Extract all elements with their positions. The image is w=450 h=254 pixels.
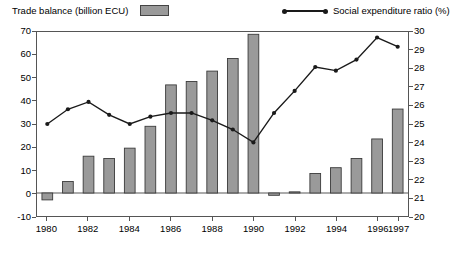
line-point-1992 (293, 89, 297, 93)
line-point-1990 (251, 140, 255, 144)
right-tick (409, 31, 413, 32)
right-tick-label-27: 27 (414, 82, 448, 92)
x-tick-label-1986: 1986 (151, 224, 191, 234)
bar-1996 (372, 139, 383, 193)
left-tick-label-50: 50 (0, 73, 31, 83)
left-tick-label-10: 10 (0, 166, 31, 176)
x-tick (295, 217, 296, 221)
x-tick-label-1982: 1982 (68, 224, 108, 234)
x-tick-label-1994: 1994 (316, 224, 356, 234)
bar-1982 (83, 156, 94, 193)
left-tick (32, 217, 36, 218)
right-tick (409, 49, 413, 50)
line-point-1980 (45, 122, 49, 126)
left-tick (32, 147, 36, 148)
left-tick (32, 124, 36, 125)
line-point-1991 (272, 111, 276, 115)
line-point-1987 (189, 111, 193, 115)
left-tick (32, 54, 36, 55)
bar-1992 (289, 192, 300, 193)
right-tick-label-20: 20 (414, 212, 448, 222)
line-point-1982 (86, 100, 90, 104)
left-tick-label-20: 20 (0, 142, 31, 152)
left-tick (32, 77, 36, 78)
right-tick (409, 161, 413, 162)
right-tick-label-25: 25 (414, 119, 448, 129)
left-tick (32, 170, 36, 171)
x-tick (46, 217, 47, 221)
bar-1985 (145, 126, 156, 193)
bar-1990 (248, 34, 259, 193)
x-tick-label-1992: 1992 (275, 224, 315, 234)
bar-1997 (392, 109, 403, 193)
legend-bar-swatch (140, 5, 169, 16)
right-tick-label-24: 24 (414, 138, 448, 148)
line-point-1988 (210, 118, 214, 122)
left-tick-label-30: 30 (0, 119, 31, 129)
chart-root: Trade balance (billion ECU) Social expen… (0, 0, 450, 254)
x-tick (129, 217, 130, 221)
x-tick (336, 217, 337, 221)
x-tick (212, 217, 213, 221)
bar-1986 (166, 85, 177, 193)
line-point-1985 (148, 115, 152, 119)
bar-1980 (42, 193, 53, 200)
right-tick (409, 105, 413, 106)
left-tick (32, 31, 36, 32)
right-tick (409, 68, 413, 69)
line-point-1996 (375, 35, 379, 39)
line-point-1984 (128, 122, 132, 126)
right-tick (409, 86, 413, 87)
left-tick-label-40: 40 (0, 96, 31, 106)
line-point-1989 (231, 127, 235, 131)
bar-1991 (269, 193, 280, 195)
line-point-1986 (169, 111, 173, 115)
plot-area (36, 31, 409, 217)
bar-1988 (207, 71, 218, 193)
legend-line-marker (283, 10, 327, 12)
left-tick-label-60: 60 (0, 49, 31, 59)
legend-bar-label: Trade balance (billion ECU) (12, 5, 128, 17)
bar-1987 (186, 81, 197, 193)
x-tick-label-1980: 1980 (26, 224, 66, 234)
left-tick-label-0: 0 (0, 189, 31, 199)
bar-1981 (63, 182, 74, 194)
line-point-1993 (313, 65, 317, 69)
right-tick-label-22: 22 (414, 175, 448, 185)
right-tick (409, 198, 413, 199)
line-point-1981 (66, 107, 70, 111)
right-tick (409, 179, 413, 180)
legend-line-label: Social expenditure ratio (%) (333, 5, 450, 17)
plot-canvas (37, 32, 408, 216)
x-tick (398, 217, 399, 221)
bar-1994 (331, 168, 342, 193)
x-tick-label-1997: 1997 (379, 224, 419, 234)
x-tick-label-1984: 1984 (109, 224, 149, 234)
right-tick-label-30: 30 (414, 26, 448, 36)
line-point-1995 (354, 58, 358, 62)
right-tick-label-23: 23 (414, 156, 448, 166)
line-series (47, 38, 397, 143)
bar-1993 (310, 173, 321, 193)
bar-1983 (104, 159, 115, 194)
bar-1995 (351, 159, 362, 194)
right-tick (409, 142, 413, 143)
x-tick (170, 217, 171, 221)
chart-legend: Trade balance (billion ECU) Social expen… (0, 0, 450, 22)
line-point-1994 (334, 69, 338, 73)
left-tick (32, 100, 36, 101)
bar-1989 (227, 58, 238, 193)
right-tick-label-29: 29 (414, 45, 448, 55)
line-point-1997 (396, 45, 400, 49)
left-tick-label--10: -10 (0, 212, 31, 222)
left-tick (32, 193, 36, 194)
x-tick (87, 217, 88, 221)
left-tick-label-70: 70 (0, 26, 31, 36)
x-tick (377, 217, 378, 221)
x-tick-label-1990: 1990 (234, 224, 274, 234)
x-tick (253, 217, 254, 221)
right-tick-label-21: 21 (414, 193, 448, 203)
right-tick (409, 217, 413, 218)
x-tick-label-1988: 1988 (192, 224, 232, 234)
right-tick (409, 124, 413, 125)
